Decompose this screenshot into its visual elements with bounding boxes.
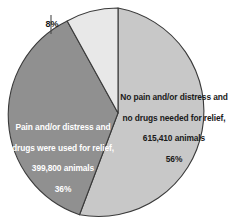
slice-label-line-2: no drugs needed for relief, — [123, 113, 226, 123]
slice-label-line-1: Pain and/or distress and — [16, 122, 111, 132]
slice-label-line-1: No pain and/or distress and — [120, 92, 228, 102]
slice-label-count: 399,800 animals — [32, 163, 94, 173]
slice-callout-clipped-text — [20, 0, 84, 8]
slice-label-percent: 56% — [166, 154, 182, 164]
slice-callout-pain-no-drugs: 8% — [20, 0, 84, 40]
slice-label-line-2: drugs were used for relief, — [12, 143, 114, 153]
slice-label-no-pain-no-drugs: No pain and/or distress and no drugs nee… — [118, 82, 230, 164]
pie-chart-figure: No pain and/or distress and no drugs nee… — [0, 0, 232, 222]
slice-callout-percent: 8% — [20, 19, 84, 30]
slice-label-pain-with-drugs: Pain and/or distress and drugs were used… — [6, 112, 120, 194]
slice-label-count: 615,410 animals — [143, 133, 205, 143]
slice-label-percent: 36% — [55, 184, 71, 194]
